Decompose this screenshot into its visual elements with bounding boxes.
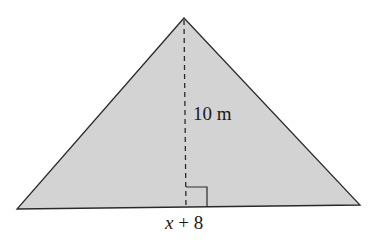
triangle-figure (0, 0, 381, 248)
triangle-diagram: 10 m x + 8 (0, 0, 381, 248)
base-expression: + 8 (173, 212, 203, 233)
triangle-shape (17, 18, 360, 209)
base-label: x + 8 (165, 212, 203, 234)
height-label: 10 m (193, 103, 232, 125)
